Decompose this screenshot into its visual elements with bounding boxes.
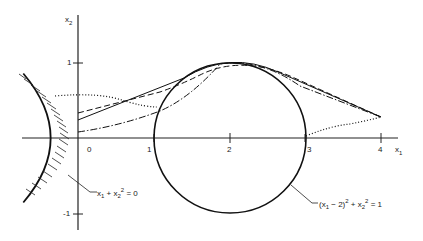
parabola-hatching xyxy=(19,74,69,195)
tick-label-x-1: 1 xyxy=(147,146,151,154)
parabola-leader xyxy=(68,175,97,192)
parabola-equation-label: x1 + x22 = 0 xyxy=(97,187,138,199)
y-axis-label: x2 xyxy=(65,16,72,26)
circle-leader xyxy=(291,185,318,203)
tick-label-x-4: 4 xyxy=(378,146,382,154)
tick-label-y-1: 1 xyxy=(67,59,71,67)
tick-label-x-3: 3 xyxy=(307,146,311,154)
circle-equation-label: (x1 − 2)2 + x22 = 1 xyxy=(319,198,382,210)
tick-label-x-2: 2 xyxy=(227,146,231,154)
path-dashed xyxy=(78,65,381,117)
tick-label-y-neg1: -1 xyxy=(63,210,70,218)
path-solid xyxy=(78,62,381,120)
path-dotted xyxy=(55,95,381,136)
x-axis-label: x1 xyxy=(395,146,402,156)
tick-label-x-0: 0 xyxy=(87,146,91,154)
